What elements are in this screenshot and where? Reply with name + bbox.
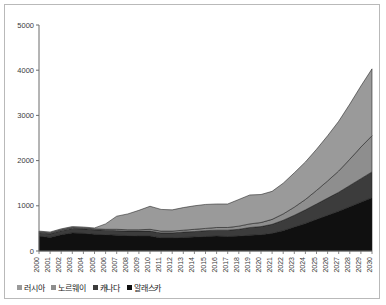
legend-item-2[interactable]: 캐나다: [93, 282, 120, 293]
legend-swatch-icon: [51, 285, 56, 290]
x-tick-label: 2002: [55, 257, 62, 273]
legend-label: 알래스카: [134, 282, 161, 293]
x-tick-label: 2004: [77, 257, 84, 273]
x-tick-label: 2025: [311, 257, 318, 273]
x-tick-label: 2011: [155, 257, 162, 272]
x-tick-label: 2029: [355, 257, 362, 273]
legend-label: 캐나다: [100, 282, 120, 293]
x-tick-label: 2003: [66, 257, 73, 273]
x-tick-label: 2009: [133, 257, 140, 273]
x-tick-label: 2018: [233, 257, 240, 273]
legend-item-1[interactable]: 노르웨이: [51, 282, 85, 293]
x-tick-label: 2026: [322, 257, 329, 273]
legend-label: 러시아: [24, 282, 44, 293]
x-tick-label: 2006: [100, 257, 107, 273]
x-tick-label: 2005: [89, 257, 96, 273]
x-tick-label: 2014: [188, 257, 195, 273]
x-tick-label: 2016: [211, 257, 218, 273]
chart-frame: 010002000300040005000 200020012002200320…: [4, 4, 380, 299]
legend-item-3[interactable]: 알래스카: [127, 282, 161, 293]
x-tick-label: 2020: [255, 257, 262, 273]
y-tick-label: 1000: [17, 201, 34, 210]
legend-swatch-icon: [17, 285, 22, 290]
x-axis-ticks: 2000200120022003200420052006200720082009…: [33, 251, 373, 273]
x-tick-label: 2001: [44, 257, 51, 273]
y-tick-label: 5000: [17, 21, 34, 30]
x-tick-label: 2027: [333, 257, 340, 273]
stacked-area-chart: 010002000300040005000 200020012002200320…: [5, 5, 379, 298]
x-tick-label: 2019: [244, 257, 251, 273]
y-tick-label: 0: [30, 247, 34, 256]
x-tick-label: 2000: [33, 257, 40, 273]
x-tick-label: 2010: [144, 257, 151, 273]
x-tick-label: 2021: [266, 257, 273, 273]
x-tick-label: 2017: [222, 257, 229, 273]
x-tick-label: 2022: [277, 257, 284, 273]
y-tick-label: 4000: [17, 66, 34, 75]
y-axis-ticks: 010002000300040005000: [17, 21, 39, 256]
x-tick-label: 2007: [111, 257, 118, 273]
x-tick-label: 2023: [288, 257, 295, 273]
y-tick-label: 2000: [17, 156, 34, 165]
legend-item-0[interactable]: 러시아: [17, 282, 44, 293]
x-tick-label: 2012: [166, 257, 173, 273]
legend-swatch-icon: [93, 285, 98, 290]
x-tick-label: 2008: [122, 257, 129, 273]
y-tick-label: 3000: [17, 111, 34, 120]
legend-swatch-icon: [127, 285, 132, 290]
x-tick-label: 2030: [366, 257, 373, 273]
chart-legend: 러시아노르웨이캐나다알래스카: [17, 282, 161, 293]
legend-label: 노르웨이: [58, 282, 85, 293]
x-tick-label: 2015: [200, 257, 207, 273]
x-tick-label: 2013: [177, 257, 184, 273]
x-tick-label: 2024: [299, 257, 306, 273]
x-tick-label: 2028: [344, 257, 351, 273]
